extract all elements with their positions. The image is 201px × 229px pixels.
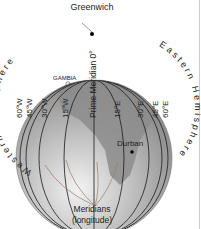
meridian-label-15w: 15°W	[61, 98, 70, 118]
caption-longitude: (longitude)	[72, 215, 112, 225]
meridian-label-45e: 45°E	[151, 101, 160, 118]
greenwich-dot	[90, 32, 94, 36]
globe-diagram: Greenwich Prime Meridian 0° GAMBIA Durba…	[0, 0, 201, 229]
durban-label: Durban	[117, 139, 143, 148]
caption-meridians: Meridians	[74, 204, 111, 214]
greenwich-label: Greenwich	[70, 2, 113, 12]
meridian-label-45w: 45°W	[25, 98, 34, 118]
meridian-label-15e: 15°E	[113, 101, 122, 118]
meridian-label-30w: 30°W	[40, 98, 49, 118]
gambia-label: GAMBIA	[53, 75, 76, 81]
meridian-label-30e: 30°E	[136, 101, 145, 118]
meridian-label-60w: 60°W	[15, 98, 24, 118]
meridian-label-60e: 60°E	[161, 101, 170, 118]
prime-meridian-label: Prime Meridian 0°	[88, 50, 98, 118]
